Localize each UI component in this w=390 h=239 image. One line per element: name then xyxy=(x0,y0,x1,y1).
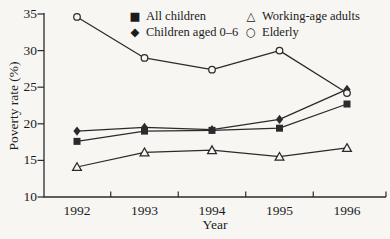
legend-entry-elderly: ○ Elderly xyxy=(244,24,299,40)
x-axis-title: Year xyxy=(203,217,228,233)
filled-diamond-icon: ◆ xyxy=(128,25,142,39)
x-tick-label-1992: 1992 xyxy=(50,203,104,219)
point-all-children-1995 xyxy=(276,125,283,132)
point-all-children-1992 xyxy=(74,138,81,145)
point-elderly-1994 xyxy=(209,66,216,73)
open-triangle-icon: △ xyxy=(244,9,258,23)
point-elderly-1993 xyxy=(141,55,148,62)
y-tick-label-35: 35 xyxy=(2,6,37,22)
x-tick-label-1993: 1993 xyxy=(118,203,172,219)
legend-entry-children-0-6: ◆ Children aged 0–6 xyxy=(128,24,238,40)
series-line-children-aged-0-6 xyxy=(77,89,347,131)
open-circle-icon: ○ xyxy=(244,25,258,39)
legend-entry-all-children: ■ All children xyxy=(128,8,206,24)
point-elderly-1992 xyxy=(74,14,81,21)
legend-label: Elderly xyxy=(262,25,299,40)
filled-square-icon: ■ xyxy=(128,9,142,23)
y-tick-label-10: 10 xyxy=(2,189,37,205)
y-tick-label-15: 15 xyxy=(2,152,37,168)
point-working-age-adults-1996 xyxy=(343,144,352,152)
legend-label: Working-age adults xyxy=(262,9,360,24)
axes xyxy=(44,13,386,197)
series-line-all-children xyxy=(77,104,347,141)
x-tick-label-1996: 1996 xyxy=(320,203,374,219)
legend-entry-working-age-adults: △ Working-age adults xyxy=(244,8,360,24)
point-children-aged-0-6-1995 xyxy=(276,115,283,124)
point-children-aged-0-6-1992 xyxy=(73,127,80,136)
x-tick-label-1995: 1995 xyxy=(253,203,307,219)
point-elderly-1996 xyxy=(344,90,351,97)
poverty-rate-chart-figure: 35 30 25 20 15 10 1992 1993 1994 1995 19… xyxy=(0,0,390,239)
point-all-children-1996 xyxy=(344,101,351,108)
point-elderly-1995 xyxy=(276,47,283,54)
legend-label: All children xyxy=(146,9,206,24)
y-axis-title: Poverty rate (%) xyxy=(6,61,22,150)
legend-label: Children aged 0–6 xyxy=(146,25,238,40)
y-tick-label-30: 30 xyxy=(2,43,37,59)
